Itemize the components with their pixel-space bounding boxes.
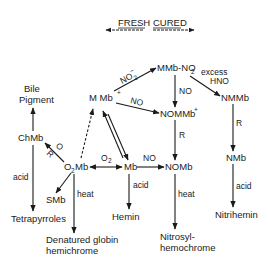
- fresh-cured-header: FRESH CURED: [106, 17, 194, 30]
- node-hemin: Hemin: [112, 211, 139, 222]
- svg-text:NOMb: NOMb: [165, 161, 192, 172]
- svg-text:Hemin: Hemin: [112, 211, 139, 222]
- node-nitrihemin: Nitrihemin: [215, 209, 258, 220]
- node-chmb: ChMb: [18, 132, 43, 143]
- node-mmb-plus: M Mb +: [89, 89, 121, 103]
- label-r-nmmb: R: [236, 118, 242, 128]
- label-o2: O: [101, 153, 108, 163]
- node-nmb: NMb: [226, 152, 246, 163]
- label-hno: HNO: [210, 76, 229, 86]
- svg-text:M Mb: M Mb: [89, 92, 113, 103]
- edge-o2mb-to-smb: [56, 173, 71, 193]
- svg-text:MMb-NO: MMb-NO: [157, 62, 196, 73]
- node-tetrapyrroles: Tetrapyrroles: [11, 213, 66, 224]
- label-no-mb: NO: [143, 153, 156, 163]
- svg-text:Bile: Bile: [24, 83, 40, 94]
- label-no2-minus: NO 2 −: [117, 66, 139, 87]
- edge-o2mb-to-mmb-dashed: [81, 109, 93, 158]
- node-o2mb: O 2 Mb: [64, 161, 88, 174]
- edge-mmb-to-mb: [108, 114, 128, 160]
- svg-text:Pigment: Pigment: [19, 94, 54, 105]
- cured-label: CURED: [153, 17, 187, 28]
- edge-mb-to-mmb: [103, 111, 123, 158]
- node-nommb-plus: NOMMb +: [160, 106, 198, 119]
- myoglobin-reaction-diagram: FRESH CURED M Mb + MMb-NO 2 NMMb NOMMb +…: [0, 0, 268, 265]
- svg-text:ChMb: ChMb: [18, 132, 43, 143]
- svg-text:Tetrapyrroles: Tetrapyrroles: [11, 213, 66, 224]
- label-no-mmb: NO: [130, 95, 145, 108]
- svg-text:2: 2: [108, 157, 112, 164]
- svg-text:Nitrosyl-: Nitrosyl-: [160, 231, 195, 242]
- svg-text:hemichrome: hemichrome: [46, 245, 98, 256]
- node-nitrosyl-hemochrome: Nitrosyl- hemochrome: [160, 231, 215, 253]
- svg-text:Mb: Mb: [75, 161, 88, 172]
- label-acid-chmb: acid: [13, 172, 29, 182]
- svg-text:+: +: [194, 106, 198, 113]
- svg-text:Nitrihemin: Nitrihemin: [215, 209, 258, 220]
- svg-text:SMb: SMb: [46, 194, 66, 205]
- label-acid-mb: acid: [133, 180, 149, 190]
- fresh-label: FRESH: [118, 17, 150, 28]
- label-r-nommb: R: [179, 130, 185, 140]
- label-r-chmb: R: [45, 148, 56, 160]
- svg-text:Mb: Mb: [124, 161, 137, 172]
- node-nomb: NOMb: [165, 161, 192, 172]
- svg-text:hemochrome: hemochrome: [160, 242, 215, 253]
- node-denatured-globin-hemichrome: Denatured globin hemichrome: [46, 234, 118, 256]
- svg-text:NMb: NMb: [226, 152, 246, 163]
- svg-text:2: 2: [191, 68, 195, 75]
- svg-text:NMMb: NMMb: [221, 92, 249, 103]
- label-acid-nmb: acid: [236, 181, 252, 191]
- svg-text:Denatured globin: Denatured globin: [46, 234, 118, 245]
- svg-text:+: +: [117, 89, 121, 96]
- label-heat-nomb: heat: [178, 189, 195, 199]
- node-bile-pigment: Bile Pigment: [19, 83, 54, 105]
- node-smb: SMb: [46, 194, 66, 205]
- label-no-mmbno2: NO: [179, 86, 192, 96]
- node-mb: Mb: [124, 161, 137, 172]
- node-nmmb: NMMb: [221, 92, 249, 103]
- label-heat-o2mb: heat: [77, 189, 94, 199]
- node-mmb-no2: MMb-NO 2: [157, 62, 196, 75]
- svg-text:NOMMb: NOMMb: [160, 108, 195, 119]
